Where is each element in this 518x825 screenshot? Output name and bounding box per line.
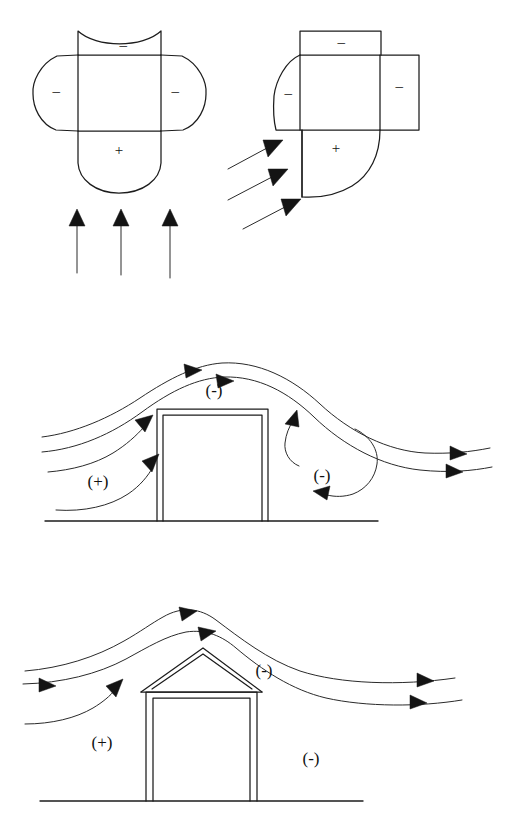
label-leeward-suction-gable: (-) [303,749,320,768]
building-outer-outline-flat [157,409,268,521]
panel-plan-view-wind-oblique: – – – + [228,31,419,229]
wind-arrow-oblique-1 [228,140,283,169]
streamline-upper-2 [42,374,492,478]
pressure-lobe-bottom [78,131,161,193]
label-pressure-oblique: + [332,140,340,156]
pressure-lobe-oblique [302,130,380,197]
wind-arrow-group-oblique [228,140,301,229]
label-suction-top-oblique: – [337,34,346,50]
roof-inner-gable [152,654,252,689]
wind-arrow-1 [69,209,85,273]
panel-plan-view-wind-normal: – – – + [33,31,206,278]
figure-canvas: – – – + [0,0,518,825]
label-pressure-bottom: + [115,142,123,158]
wind-arrow-oblique-2 [228,169,288,200]
label-suction-left: – [52,83,61,99]
suction-lobe-right [161,55,206,131]
wind-pressure-figure: – – – + [0,0,518,825]
streamline-upper-1 [42,363,490,460]
building-plan-outline [78,55,161,131]
eddy-outer-sweep [313,429,377,500]
label-leeward-suction-flat: (-) [314,466,331,485]
label-windward-pressure-gable: (+) [92,733,113,752]
label-suction-right-oblique: – [395,78,404,94]
building-inner-outline-gable [153,698,250,801]
building-inner-outline-flat [163,415,262,521]
panel-section-gable-roof: (-) (+) (-) [23,607,462,801]
label-windward-pressure-flat: (+) [88,472,109,491]
panel-section-flat-roof: (-) (+) (-) [42,363,492,521]
label-roof-suction-gable: (-) [256,661,273,680]
wind-arrow-3 [162,209,178,278]
eddy-inner-curl [285,410,299,466]
label-suction-top: – [119,37,128,53]
label-roof-suction-flat: (-) [206,381,223,400]
wind-arrow-group-normal [69,209,178,278]
label-suction-right: – [171,83,180,99]
streamline-windward-1 [48,415,153,472]
wind-arrow-oblique-3 [243,199,301,229]
wind-arrow-2 [113,209,129,275]
label-suction-left-oblique: – [284,85,293,101]
building-outer-outline-gable [146,692,257,801]
building-plan-outline-oblique [300,55,380,130]
